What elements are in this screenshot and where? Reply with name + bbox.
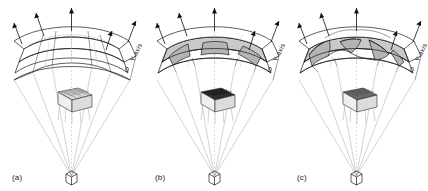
apex-cube xyxy=(209,171,220,185)
panel-a: Y-axis 0 xyxy=(0,0,143,191)
panel-caption-c: (c) xyxy=(297,173,307,182)
origin-label: 0 xyxy=(268,66,272,73)
sample-slab xyxy=(201,88,235,124)
panel-a-diagram: Y-axis 0 xyxy=(0,0,143,191)
apex-cube xyxy=(66,171,77,185)
apex-cube xyxy=(351,171,362,185)
panel-b: Y-axis 0 ( xyxy=(143,0,286,191)
arrow-5 xyxy=(128,21,136,42)
panel-c-diagram: Y-axis 0 xyxy=(285,0,428,191)
arrow-5 xyxy=(271,21,279,42)
panel-c: Y-axis 0 ( xyxy=(285,0,428,191)
arrow-4 xyxy=(106,31,112,50)
shell-radial-grid xyxy=(312,58,399,72)
shell-lower xyxy=(14,63,130,80)
normal-arrows xyxy=(12,8,136,50)
panel-caption-a: (a) xyxy=(12,173,22,182)
origin-label: 0 xyxy=(125,66,129,73)
figure-container: Y-axis 0 xyxy=(0,0,428,191)
arrow-1 xyxy=(12,23,22,44)
arrow-3 xyxy=(69,8,74,31)
origin-label: 0 xyxy=(410,66,414,73)
sample-slab xyxy=(58,88,92,124)
sample-slab xyxy=(343,88,377,124)
arrow-2 xyxy=(34,13,44,36)
panel-b-diagram: Y-axis 0 xyxy=(143,0,286,191)
arrow-5 xyxy=(413,21,421,42)
panel-caption-b: (b) xyxy=(155,173,165,182)
